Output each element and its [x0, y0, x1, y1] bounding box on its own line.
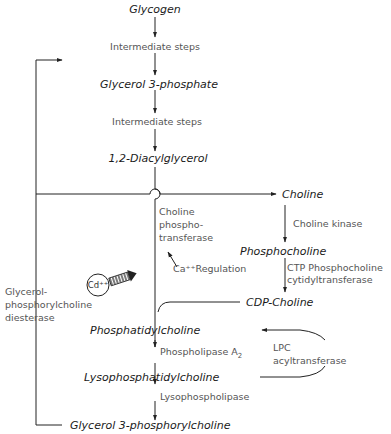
enzyme-lpc-acyl-1: LPC [273, 342, 291, 353]
enzyme-cpt-1: Choline [159, 206, 195, 217]
node-phosphatidylcholine: Phosphatidylcholine [90, 324, 201, 337]
enzyme-choline-kinase: Choline kinase [293, 218, 363, 229]
step-intermediate-1: Intermediate steps [110, 41, 200, 52]
node-diacylglycerol: 1,2-Diacylglycerol [108, 152, 207, 165]
node-glycerol-3-phosphate: Glycerol 3-phosphate [100, 78, 218, 91]
ca-regulation: Ca⁺⁺Regulation [173, 263, 246, 274]
enzyme-gpc-diesterase-2: phosphorylcholine [5, 299, 92, 310]
node-cdp-choline: CDP-Choline [246, 296, 314, 309]
node-choline: Choline [282, 188, 323, 201]
enzyme-ctp-2: cytidyltransferase [287, 274, 373, 285]
node-phosphocholine: Phosphocholine [240, 245, 327, 258]
enzyme-lpc-acyl-2: acyltransferase [273, 355, 347, 366]
lpc-acyltransferase-arrows [260, 330, 325, 377]
node-glycerol-3-phosphorylcholine: Glycerol 3-phosphorylcholine [70, 419, 231, 432]
node-glycogen: Glycogen [129, 3, 181, 16]
node-lysophosphatidylcholine: Lysophosphatidylcholine [84, 371, 220, 384]
step-intermediate-2: Intermediate steps [112, 116, 202, 127]
cd-label: Cd⁺⁺ [88, 280, 108, 290]
enzyme-lysophospholipase: Lysophospholipase [160, 391, 250, 402]
enzyme-phospholipase-a2: Phospholipase A2 [160, 346, 242, 360]
enzyme-cpt-2: phospho- [159, 219, 203, 230]
pathway-diagram: Glycogen Glycerol 3-phosphate 1,2-Diacyl… [0, 0, 391, 434]
enzyme-ctp-1: CTP Phosphocholine [287, 262, 383, 273]
enzyme-gpc-diesterase-1: Glycerol- [5, 286, 47, 297]
enzyme-cpt-3: transferase [159, 232, 213, 243]
enzyme-gpc-diesterase-3: diesterase [5, 312, 55, 323]
